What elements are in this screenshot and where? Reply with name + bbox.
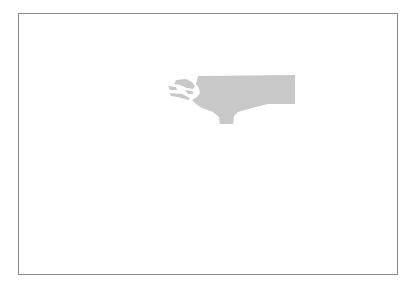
coastal-fringe-2 xyxy=(168,86,177,90)
coastal-fringe-3 xyxy=(170,93,190,100)
coastal-fringe xyxy=(174,79,195,89)
coastal-fringe-4 xyxy=(185,90,194,94)
map-canvas xyxy=(0,0,411,292)
state-region xyxy=(168,75,295,124)
state-shape xyxy=(192,75,295,124)
